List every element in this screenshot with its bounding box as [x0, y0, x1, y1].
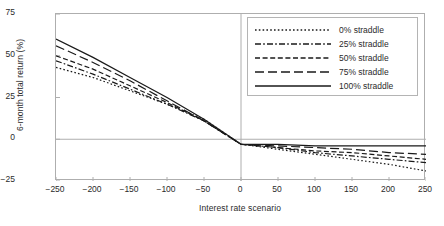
- legend-label: 25% straddle: [332, 39, 389, 49]
- legend-swatch-1: [254, 39, 332, 49]
- legend-label: 50% straddle: [332, 53, 389, 63]
- legend-swatch-3: [254, 67, 332, 77]
- y-tick-label: 0: [0, 132, 15, 142]
- legend-item: 25% straddle: [254, 37, 411, 51]
- x-axis-label: Interest rate scenario: [55, 203, 425, 213]
- y-tick-label: 50: [0, 49, 15, 59]
- y-tick-label: −25: [0, 174, 15, 184]
- legend-label: 100% straddle: [332, 81, 393, 91]
- legend-swatch-2: [254, 53, 332, 63]
- legend-label: 0% straddle: [332, 25, 384, 35]
- x-tick-label: 250: [395, 184, 444, 194]
- legend-item: 0% straddle: [254, 23, 411, 37]
- chart-figure: 6-month total return (%) −250255075 −250…: [0, 0, 444, 226]
- legend-item: 50% straddle: [254, 51, 411, 65]
- chart-legend: 0% straddle25% straddle50% straddle75% s…: [247, 17, 418, 96]
- y-tick-label: 75: [0, 7, 15, 17]
- legend-swatch-0: [254, 25, 332, 35]
- y-axis-label: 6-month total return (%): [15, 5, 25, 165]
- legend-item: 75% straddle: [254, 65, 411, 79]
- y-tick-label: 25: [0, 91, 15, 101]
- legend-label: 75% straddle: [332, 67, 389, 77]
- legend-item: 100% straddle: [254, 79, 411, 93]
- legend-swatch-4: [254, 81, 332, 91]
